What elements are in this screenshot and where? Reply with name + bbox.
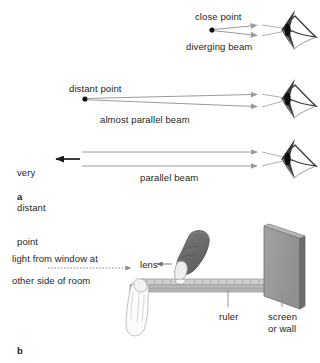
- label-close-point: close point: [195, 11, 242, 23]
- ray-lower-into-eye-2: [262, 101, 283, 107]
- pupil-row2: [285, 93, 291, 106]
- label-other-side-of-room: other side of room: [12, 275, 90, 287]
- panel-letter-a: a: [17, 191, 22, 202]
- screen-object: [264, 224, 305, 309]
- label-ruler: ruler: [219, 311, 239, 323]
- label-distant-point: distant point: [69, 83, 122, 95]
- ray-lower-into-eye-3: [262, 161, 283, 166]
- hand-holding-lens: [175, 231, 210, 285]
- source-point-distant: [82, 96, 87, 101]
- label-very-distant-point: very distant point: [17, 144, 46, 271]
- label-screen: screen: [268, 311, 297, 323]
- ray-lower-almost-parallel: [88, 100, 257, 107]
- ray-upper-almost-parallel: [88, 94, 257, 98]
- ray-upper-into-eye-2: [262, 94, 283, 97]
- panel-letter-b: b: [17, 345, 23, 356]
- label-lens: lens: [140, 259, 158, 271]
- ray-upper-diverging: [215, 25, 257, 29]
- ray-upper-into-eye: [262, 25, 283, 28]
- pupil-row3: [285, 153, 291, 166]
- eye-icon-row1: [282, 10, 316, 50]
- ray-upper-into-eye-3: [262, 152, 283, 157]
- label-light-from-window: light from window at: [12, 253, 98, 265]
- label-very-distant-point-line2: distant: [17, 202, 46, 214]
- label-diverging-beam: diverging beam: [186, 41, 252, 53]
- label-or-wall: or wall: [268, 323, 296, 335]
- hand-holding-ruler: [126, 279, 148, 336]
- label-very-distant-point-line3: point: [17, 236, 46, 248]
- label-almost-parallel-beam: almost parallel beam: [100, 114, 190, 126]
- label-very-distant-point-line1: very: [17, 167, 46, 179]
- pupil-row1: [285, 24, 291, 37]
- lens-object: [176, 279, 186, 284]
- source-point-close: [209, 27, 214, 32]
- figure-optics-diagram: close point diverging beam distant point…: [0, 0, 320, 363]
- ray-lower-into-eye: [262, 32, 283, 36]
- label-parallel-beam: parallel beam: [140, 172, 198, 184]
- eye-icon-row2: [282, 79, 316, 119]
- eye-icon-row3: [282, 139, 316, 179]
- ray-lower-diverging: [215, 31, 257, 36]
